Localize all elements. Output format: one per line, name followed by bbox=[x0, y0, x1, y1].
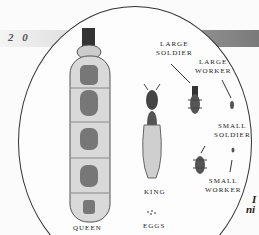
small-soldier-icon bbox=[193, 156, 207, 174]
label-large-soldier: LARGE SOLDIER bbox=[156, 40, 193, 58]
label-king: KING bbox=[144, 188, 166, 197]
label-queen: QUEEN bbox=[73, 224, 102, 233]
queen-icon bbox=[70, 28, 110, 222]
label-small-soldier: SMALL SOLDIER bbox=[214, 122, 251, 140]
large-worker-icon bbox=[230, 101, 234, 109]
small-worker-icon bbox=[232, 148, 235, 153]
label-eggs: EGGS bbox=[143, 222, 165, 231]
large-soldier-icon bbox=[188, 86, 202, 114]
termite-drawings bbox=[0, 0, 259, 235]
side-text-2: ni bbox=[246, 203, 255, 215]
king-icon bbox=[143, 84, 162, 178]
eggs-icon bbox=[147, 210, 156, 215]
label-large-worker: LARGE WORKER bbox=[195, 58, 231, 76]
label-small-worker: SMALL WORKER bbox=[205, 177, 241, 195]
